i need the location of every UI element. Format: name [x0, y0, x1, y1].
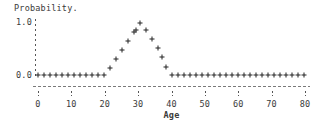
- data-point-marker: [272, 73, 277, 78]
- x-tick-mark: [205, 91, 206, 96]
- data-point-marker: [138, 21, 143, 26]
- plot-screenshot: Probability. 1.0 0.0 01020304050607080 A…: [0, 0, 321, 123]
- data-point-marker: [200, 73, 205, 78]
- data-point-marker: [114, 57, 119, 62]
- data-point-marker: [248, 73, 253, 78]
- data-point-marker: [164, 65, 169, 70]
- data-point-marker: [236, 73, 241, 78]
- x-tick-mark: [138, 91, 139, 96]
- data-point-marker: [78, 73, 83, 78]
- y-tick-label-top: 1.0: [10, 17, 32, 27]
- data-point-marker: [206, 73, 211, 78]
- x-tick-label: 0: [35, 99, 40, 109]
- data-point-marker: [260, 73, 265, 78]
- data-point-marker: [156, 45, 161, 50]
- x-tick-label: 30: [133, 99, 144, 109]
- data-point-marker: [182, 73, 187, 78]
- data-point-marker: [278, 73, 283, 78]
- data-point-marker: [218, 73, 223, 78]
- x-tick-label: 80: [300, 99, 311, 109]
- y-axis-title: Probability.: [14, 3, 78, 13]
- x-axis-title: Age: [164, 110, 180, 120]
- data-point-marker: [266, 73, 271, 78]
- data-point-marker: [242, 73, 247, 78]
- x-tick-mark: [172, 91, 173, 96]
- data-point-marker: [212, 73, 217, 78]
- data-point-marker: [42, 73, 47, 78]
- data-point-marker: [224, 73, 229, 78]
- y-tick-label-bottom: 0.0: [10, 70, 32, 80]
- data-point-marker: [254, 73, 259, 78]
- data-point-marker: [144, 27, 149, 32]
- x-tick-mark: [305, 91, 306, 96]
- data-point-marker: [284, 73, 289, 78]
- x-tick-mark: [71, 91, 72, 96]
- data-point-marker: [54, 73, 59, 78]
- data-point-marker: [120, 48, 125, 53]
- x-tick-label: 40: [166, 99, 177, 109]
- data-point-marker: [72, 73, 77, 78]
- data-point-marker: [296, 73, 301, 78]
- x-tick-label: 50: [200, 99, 211, 109]
- data-point-marker: [108, 66, 113, 71]
- x-tick-mark: [38, 91, 39, 96]
- data-point-marker: [290, 73, 295, 78]
- data-point-marker: [134, 27, 139, 32]
- data-point-marker: [126, 39, 131, 44]
- data-point-marker: [176, 73, 181, 78]
- data-point-marker: [66, 73, 71, 78]
- data-point-marker: [90, 73, 95, 78]
- data-point-marker: [170, 73, 175, 78]
- x-tick-label: 20: [99, 99, 110, 109]
- x-tick-label: 70: [266, 99, 277, 109]
- data-point-marker: [102, 73, 107, 78]
- x-tick-mark: [105, 91, 106, 96]
- data-point-marker: [194, 73, 199, 78]
- data-point-marker: [150, 36, 155, 41]
- data-point-marker: [60, 73, 65, 78]
- x-tick-label: 10: [66, 99, 77, 109]
- data-point-marker: [302, 73, 307, 78]
- data-point-marker: [84, 73, 89, 78]
- y-axis-line: [35, 19, 36, 78]
- data-point-marker: [230, 73, 235, 78]
- axis-separator-rule: [33, 86, 310, 87]
- x-tick-mark: [272, 91, 273, 96]
- data-point-marker: [48, 73, 53, 78]
- data-point-marker: [188, 73, 193, 78]
- data-point-marker: [96, 73, 101, 78]
- x-tick-label: 60: [233, 99, 244, 109]
- x-tick-mark: [238, 91, 239, 96]
- data-point-marker: [36, 73, 41, 78]
- data-point-marker: [160, 54, 165, 59]
